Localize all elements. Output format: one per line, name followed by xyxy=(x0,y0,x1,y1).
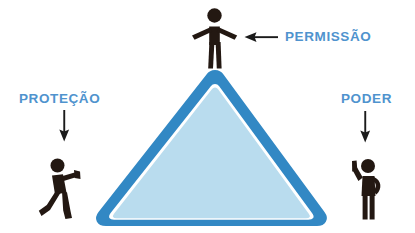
arrow-down-icon-protecao xyxy=(59,110,69,142)
left-figure-front-leg xyxy=(62,192,72,220)
right-figure-left-leg xyxy=(363,194,368,220)
left-figure-back-leg xyxy=(39,191,61,216)
arrow-down-shaft-poder xyxy=(364,111,366,134)
right-figure xyxy=(352,159,380,220)
diagram-canvas: PERMISSÃO PROTEÇÃO PODER xyxy=(0,0,415,233)
right-figure-raised-hand xyxy=(352,161,357,172)
top-figure xyxy=(192,8,237,68)
top-figure-left-leg xyxy=(208,42,214,69)
right-figure-right-leg xyxy=(370,194,375,220)
top-figure-right-leg xyxy=(216,42,222,69)
left-figure-head xyxy=(51,159,65,173)
arrow-down-shaft-protecao xyxy=(63,110,65,133)
left-figure-hand xyxy=(74,170,81,179)
triangle-shape xyxy=(96,70,327,226)
label-permissao: PERMISSÃO xyxy=(285,30,371,44)
left-figure-arm xyxy=(61,172,77,181)
label-poder: PODER xyxy=(341,92,392,106)
arrow-left-icon xyxy=(245,32,279,42)
left-figure xyxy=(39,159,81,220)
top-figure-head xyxy=(207,8,221,22)
arrow-left-shaft xyxy=(253,36,278,38)
arrow-down-icon-poder xyxy=(360,111,370,143)
right-figure-head xyxy=(361,159,375,173)
label-protecao: PROTEÇÃO xyxy=(19,92,100,106)
